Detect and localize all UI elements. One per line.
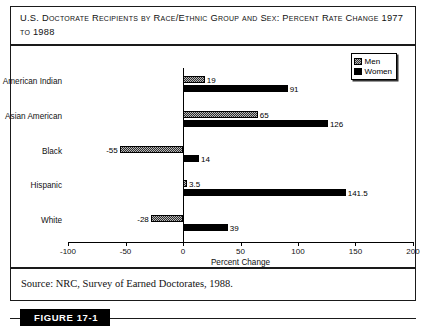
chart-row-asian-american: Asian American 65 126 (68, 103, 413, 138)
x-tick-label: -50 (120, 247, 132, 256)
page-title: U.S. Doctorate Recipients by Race/Ethnic… (20, 12, 407, 39)
bar-value-women-american-indian: 91 (290, 86, 299, 93)
x-tick-label: -100 (60, 247, 76, 256)
bar-men-asian-american: 65 (183, 111, 258, 118)
x-tick-label: 100 (291, 247, 304, 256)
category-label-black: Black (0, 147, 62, 156)
bar-women-black: 14 (183, 155, 199, 162)
bar-value-women-hispanic: 141.5 (348, 190, 368, 197)
chart-row-white: White -28 39 (68, 207, 413, 242)
chart-row-black: Black -55 14 (68, 138, 413, 173)
source-note: Source: NRC, Survey of Earned Doctorates… (21, 278, 233, 289)
bar-value-men-american-indian: 19 (207, 77, 216, 84)
x-axis-title: Percent Change (68, 258, 413, 267)
bar-value-men-white: -28 (137, 216, 149, 223)
bar-men-black: -55 (120, 146, 183, 153)
category-label-american-indian: American Indian (0, 77, 62, 86)
category-label-asian-american: Asian American (0, 112, 62, 121)
bar-men-white: -28 (151, 215, 183, 222)
x-tick-label: 0 (181, 247, 185, 256)
x-axis: -100 -50 0 50 100 150 200 (68, 242, 413, 243)
chart-row-hispanic: Hispanic 3.5 141.5 (68, 172, 413, 207)
bar-value-women-white: 39 (230, 225, 239, 232)
bar-men-american-indian: 19 (183, 76, 205, 83)
bar-women-hispanic: 141.5 (183, 189, 346, 196)
x-tick-mark (241, 242, 242, 246)
x-tick-mark (298, 242, 299, 246)
x-tick-mark (355, 242, 356, 246)
bar-men-hispanic: 3.5 (183, 180, 187, 187)
bar-women-white: 39 (183, 224, 228, 231)
legend-swatch-men-icon (354, 58, 362, 65)
x-tick-label: 150 (349, 247, 362, 256)
x-tick-mark (413, 242, 414, 246)
plot-area: American Indian 19 91 Asian American 65 … (68, 68, 413, 242)
x-tick-label: 200 (406, 247, 419, 256)
figure-frame: U.S. Doctorate Recipients by Race/Ethnic… (10, 6, 416, 301)
figure-caption: FIGURE 17-1 (20, 309, 110, 326)
bar-value-men-hispanic: 3.5 (189, 181, 200, 188)
x-tick-mark (68, 242, 69, 246)
bar-value-women-black: 14 (201, 156, 210, 163)
bar-value-women-asian-american: 126 (330, 121, 343, 128)
category-label-white: White (0, 216, 62, 225)
bar-value-men-black: -55 (106, 147, 118, 154)
x-tick-mark (126, 242, 127, 246)
figure-source-band: Source: NRC, Survey of Earned Doctorates… (11, 267, 415, 300)
bar-women-asian-american: 126 (183, 120, 328, 127)
bar-women-american-indian: 91 (183, 85, 288, 92)
x-tick-label: 50 (236, 247, 245, 256)
category-label-hispanic: Hispanic (0, 181, 62, 190)
chart-body: Men Women American Indian 19 91 Asi (11, 46, 415, 267)
x-tick-mark (183, 242, 184, 246)
legend-item-men: Men (354, 57, 392, 66)
figure-title-band: U.S. Doctorate Recipients by Race/Ethnic… (11, 7, 415, 46)
chart-row-american-indian: American Indian 19 91 (68, 68, 413, 103)
legend-label-men: Men (365, 57, 381, 66)
bar-value-men-asian-american: 65 (260, 112, 269, 119)
